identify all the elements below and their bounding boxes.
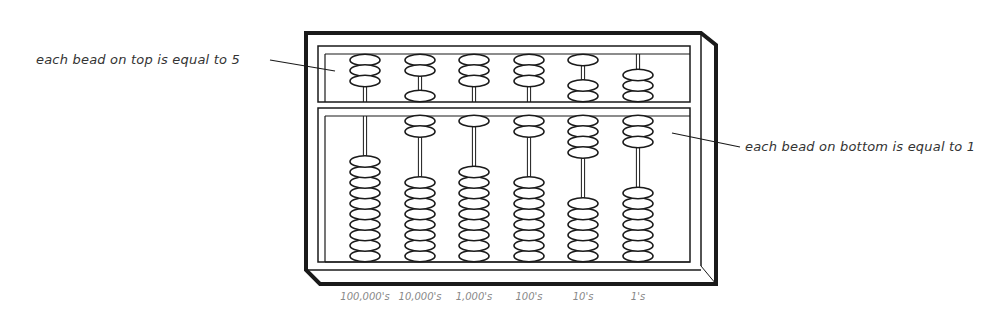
upper-bead [623,69,653,81]
column-label: 100,000's [340,291,389,302]
lower-bead [514,177,544,189]
upper-bead [405,90,435,102]
upper-bead [405,65,435,77]
lower-bead [405,126,435,138]
lower-bead [350,156,380,168]
upper-bead [350,75,380,87]
column-label: 100's [515,291,542,302]
lower-bead [405,177,435,189]
lower-bead [459,115,489,127]
annotation-top-beads: each bead on top is equal to 5 [36,52,240,67]
upper-bead [514,75,544,87]
lower-bead [623,187,653,199]
upper-bead [568,80,598,92]
column-label: 10's [573,291,594,302]
lower-bead [568,147,598,159]
lower-bead [568,198,598,210]
annotation-bottom-beads: each bead on bottom is equal to 1 [745,138,985,156]
column-label: 1's [631,291,645,302]
lower-bead [623,136,653,148]
column-label: 10,000's [399,291,442,302]
lower-bead [459,166,489,178]
column-label: 1,000's [456,291,493,302]
upper-bead [459,75,489,87]
upper-bead [568,54,598,66]
abacus-diagram [0,0,985,322]
lower-bead [514,126,544,138]
